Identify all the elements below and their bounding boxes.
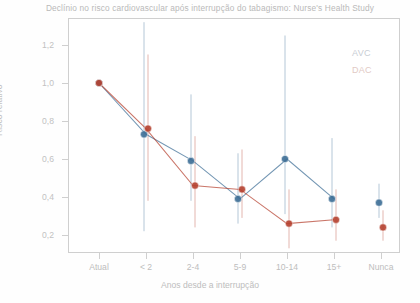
legend-item-avc: AVC bbox=[352, 48, 371, 58]
y-tick-label: 1,0 bbox=[28, 78, 54, 88]
y-tick-label: 0,2 bbox=[28, 230, 54, 240]
x-tick-mark bbox=[381, 253, 382, 259]
chart-title: Declínio no risco cardiovascular após in… bbox=[0, 3, 420, 13]
chart-container: Declínio no risco cardiovascular após in… bbox=[0, 0, 420, 303]
x-tick-mark bbox=[99, 253, 100, 259]
plot-area bbox=[68, 18, 400, 253]
y-tick-label: 0,6 bbox=[28, 154, 54, 164]
y-tick-mark bbox=[62, 159, 68, 160]
y-tick-mark bbox=[62, 45, 68, 46]
y-tick-mark bbox=[62, 121, 68, 122]
y-tick-mark bbox=[62, 197, 68, 198]
x-tick-mark bbox=[240, 253, 241, 259]
y-tick-label: 1,2 bbox=[28, 40, 54, 50]
y-tick-label: 0,4 bbox=[28, 192, 54, 202]
x-tick-mark bbox=[287, 253, 288, 259]
x-tick-mark bbox=[193, 253, 194, 259]
y-tick-label: 0,8 bbox=[28, 116, 54, 126]
y-tick-mark bbox=[62, 83, 68, 84]
x-tick-label: Nunca bbox=[351, 262, 411, 272]
x-tick-mark bbox=[334, 253, 335, 259]
x-axis-label: Anos desde a interrupção bbox=[0, 280, 420, 290]
y-axis-label: Risco relativo bbox=[0, 84, 4, 136]
x-tick-mark bbox=[146, 253, 147, 259]
legend-item-dac: DAC bbox=[352, 65, 372, 75]
y-tick-mark bbox=[62, 235, 68, 236]
